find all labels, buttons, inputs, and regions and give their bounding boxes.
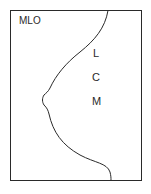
zone-label-lateral: L [93, 48, 99, 59]
mlo-breast-diagram [0, 0, 151, 194]
view-label: MLO [19, 15, 41, 26]
zone-label-medial: M [92, 96, 101, 107]
view-frame [11, 11, 142, 181]
zone-label-central: C [92, 72, 100, 83]
